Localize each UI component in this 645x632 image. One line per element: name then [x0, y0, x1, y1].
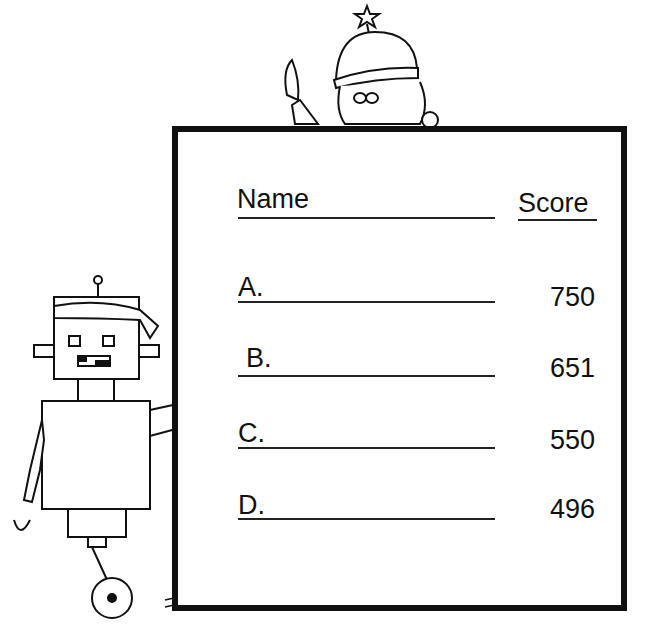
row-score-b: 651: [550, 353, 595, 384]
name-column-header: Name: [237, 184, 309, 215]
score-column-header: Score: [518, 188, 589, 219]
row-letter-d: D.: [238, 490, 265, 521]
row-letter-b: B.: [246, 343, 272, 374]
row-letter-a: A.: [238, 272, 264, 303]
row-letter-c: C.: [238, 418, 265, 449]
kid-illustration: [285, 6, 438, 128]
name-blank-c[interactable]: [238, 447, 495, 449]
name-header-underline: [238, 217, 495, 219]
row-score-a: 750: [550, 282, 595, 313]
score-header-underline: [518, 219, 597, 221]
name-blank-d[interactable]: [238, 518, 495, 520]
row-score-d: 496: [550, 494, 595, 525]
name-blank-b[interactable]: [238, 375, 495, 377]
name-blank-a[interactable]: [238, 301, 495, 303]
row-score-c: 550: [550, 425, 595, 456]
